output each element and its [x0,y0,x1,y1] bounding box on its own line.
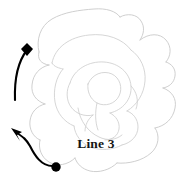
mid-petal-right-lower [122,111,138,145]
line-3-label: Line 3 [77,136,115,151]
petal-bottom-right [117,128,158,163]
mid-petal-left-upper [52,63,63,69]
mid-petal-left [54,69,74,126]
spiral-lower-fold [78,108,122,139]
petal-right-lower [155,88,175,128]
mid-petal-top [52,35,131,63]
spiral-fold-line [85,115,93,131]
upper-leader-line[interactable] [15,50,27,100]
spiral-core-teardrop [88,72,121,104]
spiral-inner-left [67,83,93,116]
rose-inner-spiral [67,62,137,140]
petal-bottom-middle [75,158,117,172]
figure-canvas: Line 3 [0,0,193,181]
lower-leader-line[interactable] [17,133,54,166]
petal-left-middle [32,65,49,104]
rose-diagram-svg: Line 3 [0,0,193,181]
petal-right-upper [140,35,170,62]
upper-annotation-group[interactable] [15,43,33,100]
spiral-core-curl [96,103,98,130]
petal-top-right [120,15,144,40]
spiral-outer-loop [70,62,131,113]
circle-marker-icon[interactable] [51,162,60,171]
diamond-marker-icon[interactable] [21,43,33,56]
petal-left-upper [38,52,49,65]
petal-top-left [38,9,120,52]
petal-left-lower [30,104,45,140]
petal-right-middle [163,62,175,88]
petal-bottom-left [39,140,75,165]
lower-annotation-group[interactable] [11,128,61,172]
